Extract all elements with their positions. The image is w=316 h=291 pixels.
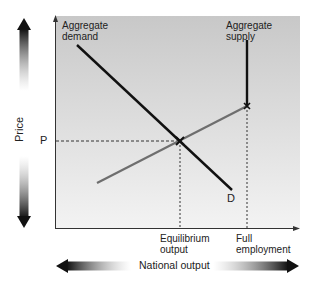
price-tick-label: P: [40, 135, 47, 146]
price-down-arrow-icon: [17, 216, 31, 228]
aggregate-demand-label: Aggregate demand: [62, 20, 108, 42]
price-axis-label: Price: [14, 72, 25, 112]
equilibrium-output-label: Equilibrium output: [160, 233, 209, 255]
output-left-arrow-icon: [56, 259, 68, 273]
demand-end-label: D: [227, 193, 235, 204]
aggregate-supply-label: Aggregate supply: [226, 20, 272, 42]
national-output-label: National output: [139, 260, 210, 271]
full-employment-label: Full employment: [236, 233, 290, 255]
plot-area: [55, 16, 300, 228]
price-up-arrow-icon: [17, 18, 31, 30]
output-right-arrow-icon: [287, 259, 299, 273]
